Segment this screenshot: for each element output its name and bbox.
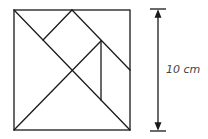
arrow-down-icon — [156, 123, 161, 129]
dimension-label: 10 cm — [166, 63, 200, 76]
arrow-up-icon — [156, 11, 161, 17]
top-cut-left — [43, 10, 72, 40]
